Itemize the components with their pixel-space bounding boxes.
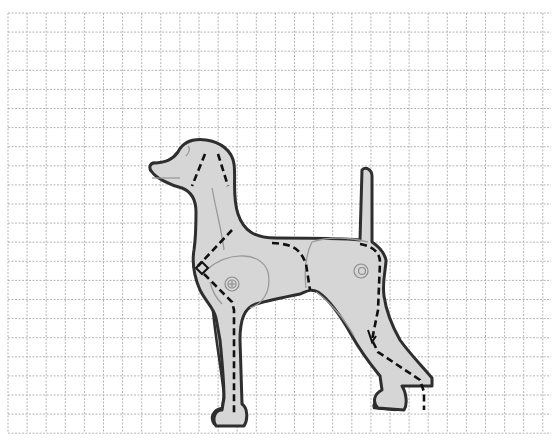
dog-grid-diagram: [0, 0, 557, 443]
